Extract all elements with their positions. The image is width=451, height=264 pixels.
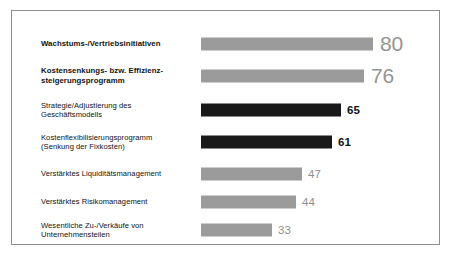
bar-track: 65 — [201, 95, 435, 125]
bar-chart-rows: Wachstums-/Vertriebsinitiativen80Kostens… — [12, 11, 439, 244]
bar — [201, 168, 302, 181]
bar — [201, 38, 373, 51]
bar-track: 44 — [201, 187, 435, 217]
bar-row-label: Strategie/Adjustierung des Geschäftsmode… — [41, 101, 201, 120]
bar — [201, 196, 296, 209]
bar-value-label: 65 — [347, 104, 360, 116]
bar — [201, 136, 332, 149]
bar — [201, 224, 272, 237]
bar-value-label: 76 — [371, 64, 394, 88]
bar-value-label: 33 — [278, 224, 291, 236]
bar-row-label: Kostensenkungs- bzw. Effizienz- steigeru… — [41, 66, 201, 85]
bar-value-label: 61 — [338, 136, 351, 148]
bar-value-label: 47 — [308, 168, 321, 180]
bar-value-label: 80 — [380, 32, 403, 56]
bar-row: Verstärktes Liquiditätsmanagement47 — [12, 159, 439, 189]
bar-row: Wesentliche Zu-/Verkäufe von Unternehmen… — [12, 215, 439, 245]
bar-row: Kostenflexibilisierungsprogramm (Senkung… — [12, 127, 439, 157]
bar — [201, 70, 364, 83]
bar — [201, 104, 341, 117]
bar-row-label: Wachstums-/Vertriebsinitiativen — [41, 39, 201, 49]
bar-row-label: Verstärktes Liquiditätsmanagement — [41, 169, 201, 178]
bar-row-label: Wesentliche Zu-/Verkäufe von Unternehmen… — [41, 221, 201, 240]
bar-row: Wachstums-/Vertriebsinitiativen80 — [12, 29, 439, 59]
bar-track: 76 — [201, 61, 435, 91]
bar-row: Strategie/Adjustierung des Geschäftsmode… — [12, 95, 439, 125]
bar-row-label: Kostenflexibilisierungsprogramm (Senkung… — [41, 133, 201, 152]
bar-value-label: 44 — [302, 196, 315, 208]
bar-track: 80 — [201, 29, 435, 59]
bar-track: 61 — [201, 127, 435, 157]
bar-track: 47 — [201, 159, 435, 189]
bar-row-label: Verstärktes Risikomanagement — [41, 197, 201, 206]
bar-row: Kostensenkungs- bzw. Effizienz- steigeru… — [12, 61, 439, 91]
chart-frame: Wachstums-/Vertriebsinitiativen80Kostens… — [11, 10, 440, 245]
bar-track: 33 — [201, 215, 435, 245]
bar-row: Verstärktes Risikomanagement44 — [12, 187, 439, 217]
